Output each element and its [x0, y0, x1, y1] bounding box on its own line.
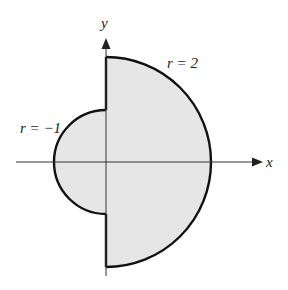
- label-r-minus-1: r = −1: [20, 120, 61, 136]
- y-axis-arrow-icon: [102, 38, 111, 49]
- y-axis-label: y: [99, 15, 108, 31]
- x-axis-arrow-icon: [252, 158, 263, 167]
- diagram-svg: y x r = 2 r = −1: [0, 0, 288, 290]
- x-axis-label: x: [265, 154, 273, 170]
- polar-region-diagram: y x r = 2 r = −1: [0, 0, 288, 290]
- label-r2: r = 2: [167, 55, 198, 71]
